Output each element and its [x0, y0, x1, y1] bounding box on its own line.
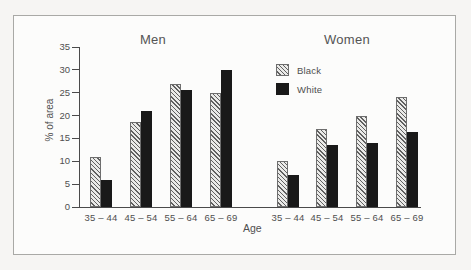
- x-tick-label: 35 – 44: [79, 212, 123, 223]
- y-axis: [79, 47, 80, 207]
- bar-women-55-64-white: [367, 143, 378, 207]
- panel-title-men: Men: [93, 32, 213, 47]
- bar-women-65-69-white: [407, 132, 418, 207]
- bar-men-65-69-black: [210, 93, 221, 207]
- y-tick-label: 0: [40, 202, 70, 212]
- x-tick-label: 65 – 69: [385, 212, 429, 223]
- x-tick-label: 45 – 54: [119, 212, 163, 223]
- y-tick-label: 15: [40, 133, 70, 143]
- x-tick-label: 45 – 54: [305, 212, 349, 223]
- hatched-swatch-icon: [276, 64, 289, 76]
- legend-label: White: [297, 84, 322, 95]
- bar-men-55-64-black: [170, 84, 181, 207]
- y-tick-label: 35: [40, 42, 70, 52]
- y-tick-mark: [72, 138, 79, 139]
- y-tick-label: 10: [40, 156, 70, 166]
- y-tick-label: 5: [40, 179, 70, 189]
- bar-women-35-44-black: [277, 161, 288, 207]
- x-tick-label: 35 – 44: [266, 212, 310, 223]
- bar-men-45-54-white: [141, 111, 152, 207]
- figure-frame: Men Women Black White % of area Age 0510…: [13, 15, 456, 255]
- y-tick-mark: [72, 161, 79, 162]
- y-tick-mark: [72, 207, 79, 208]
- legend-item-black: Black: [276, 64, 322, 76]
- y-tick-label: 20: [40, 111, 70, 121]
- x-tick-label: 65 – 69: [199, 212, 243, 223]
- y-tick-mark: [72, 47, 79, 48]
- y-tick-mark: [72, 115, 79, 116]
- bar-men-35-44-white: [101, 180, 112, 207]
- legend-item-white: White: [276, 83, 322, 95]
- x-tick-label: 55 – 64: [159, 212, 203, 223]
- panel-title-women: Women: [287, 32, 407, 47]
- y-tick-label: 30: [40, 65, 70, 75]
- bar-women-65-69-black: [396, 97, 407, 207]
- y-tick-mark: [72, 184, 79, 185]
- bar-men-45-54-black: [130, 122, 141, 207]
- bar-men-55-64-white: [181, 90, 192, 207]
- solid-swatch-icon: [276, 83, 289, 95]
- bar-men-65-69-white: [221, 70, 232, 207]
- x-axis-label: Age: [243, 222, 262, 234]
- bar-women-45-54-black: [316, 129, 327, 207]
- legend-label: Black: [297, 65, 321, 76]
- bar-men-35-44-black: [90, 157, 101, 207]
- x-tick-label: 55 – 64: [345, 212, 389, 223]
- y-tick-mark: [72, 69, 79, 70]
- legend: Black White: [276, 64, 322, 102]
- y-tick-label: 25: [40, 88, 70, 98]
- bar-women-55-64-black: [356, 116, 367, 207]
- bar-women-45-54-white: [327, 145, 338, 207]
- y-tick-mark: [72, 92, 79, 93]
- x-axis: [79, 207, 421, 208]
- bar-women-35-44-white: [288, 175, 299, 207]
